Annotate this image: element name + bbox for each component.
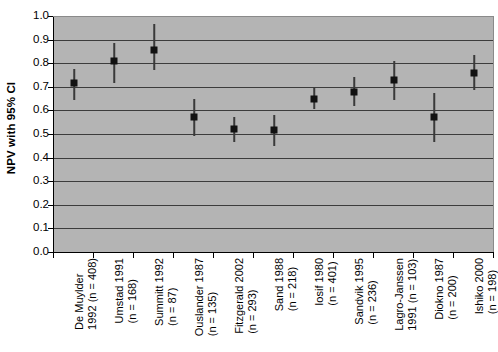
data-point-marker bbox=[311, 95, 318, 102]
y-axis-tick-mark bbox=[48, 134, 53, 135]
data-point-marker bbox=[71, 80, 78, 87]
y-axis-title: NPV with 95% CI bbox=[0, 0, 22, 256]
category-label-line-1: Sand 1988 bbox=[273, 258, 285, 311]
x-axis-category-label: Ouslander 1987(n = 135) bbox=[173, 258, 213, 352]
y-axis-tick-mark bbox=[48, 63, 53, 64]
y-axis-tick-label: 0.0 bbox=[20, 246, 49, 258]
category-label-line-1: Lagro-Janssen bbox=[393, 258, 405, 331]
category-label-line-1: Diokno 1987 bbox=[433, 258, 445, 320]
y-axis-tick-mark bbox=[48, 16, 53, 17]
x-axis-tick-mark bbox=[253, 253, 254, 258]
gridline bbox=[54, 40, 494, 41]
y-axis-tick-mark bbox=[48, 205, 53, 206]
gridline bbox=[54, 110, 494, 111]
data-point-marker bbox=[191, 114, 198, 121]
x-axis-category-label: Ishiko 2000(n = 198) bbox=[453, 258, 493, 352]
y-axis-tick-label: 0.2 bbox=[20, 199, 49, 211]
data-point-marker bbox=[271, 127, 278, 134]
category-label-line-1: Ishiko 2000 bbox=[473, 258, 485, 314]
x-axis-category-label: Sandvik 1995(n = 236) bbox=[333, 258, 373, 352]
x-axis-category-label: Iosif 1980(n = 401) bbox=[293, 258, 333, 352]
category-label-line-1: Umstad 1991 bbox=[113, 258, 125, 323]
y-axis-tick-label: 0.3 bbox=[20, 175, 49, 187]
gridline bbox=[54, 87, 494, 88]
y-axis-tick-label: 0.4 bbox=[20, 152, 49, 164]
gridline bbox=[54, 63, 494, 64]
data-point-marker bbox=[351, 88, 358, 95]
y-axis-tick-mark bbox=[48, 110, 53, 111]
x-axis-tick-mark bbox=[93, 253, 94, 258]
y-axis-tick-label: 0.5 bbox=[20, 128, 49, 140]
x-axis-category-label: Sand 1988(n = 218) bbox=[253, 258, 293, 352]
category-label-line-2: (n = 198) bbox=[486, 258, 498, 314]
x-axis-line bbox=[53, 252, 494, 253]
plot-area-right-border bbox=[493, 16, 494, 253]
y-axis-tick-mark bbox=[48, 87, 53, 88]
x-axis-category-label: Lagro-Janssen1991 (n = 103) bbox=[373, 258, 413, 352]
y-axis-tick-label: 0.1 bbox=[20, 223, 49, 235]
x-axis-category-label: Diokno 1987(n = 200) bbox=[413, 258, 453, 352]
gridline bbox=[54, 181, 494, 182]
data-point-marker bbox=[391, 76, 398, 83]
x-axis-category-label: Umstad 1991(n = 168) bbox=[93, 258, 133, 352]
x-axis-tick-mark bbox=[133, 253, 134, 258]
y-axis-tick-mark bbox=[48, 228, 53, 229]
x-axis-tick-mark bbox=[173, 253, 174, 258]
x-axis-tick-mark bbox=[333, 253, 334, 258]
y-axis-tick-mark bbox=[48, 40, 53, 41]
y-axis-tick-label: 0.8 bbox=[20, 57, 49, 69]
gridline bbox=[54, 205, 494, 206]
y-axis-tick-label: 0.9 bbox=[20, 34, 49, 46]
y-axis-title-text: NPV with 95% CI bbox=[5, 82, 17, 174]
data-point-marker bbox=[111, 57, 118, 64]
category-label-line-1: Sandvik 1995 bbox=[353, 258, 365, 325]
x-axis-tick-mark bbox=[453, 253, 454, 258]
x-axis-tick-mark bbox=[213, 253, 214, 258]
category-label-line-1: Summitt 1992 bbox=[153, 258, 165, 326]
plot-area-top-border bbox=[53, 16, 494, 17]
category-label-line-1: Ouslander 1987 bbox=[193, 258, 205, 336]
category-label-line-1: De Muylder bbox=[73, 274, 85, 330]
data-point-marker bbox=[431, 114, 438, 121]
x-axis-tick-mark bbox=[53, 253, 54, 258]
x-axis-tick-mark bbox=[493, 253, 494, 258]
x-axis-category-label: Summitt 1992(n = 87) bbox=[133, 258, 173, 352]
y-axis-tick-mark bbox=[48, 158, 53, 159]
data-point-marker bbox=[231, 126, 238, 133]
y-axis-tick-labels: 1.00.90.80.70.60.50.40.30.20.10.0 bbox=[20, 0, 49, 256]
gridline bbox=[54, 158, 494, 159]
y-axis-tick-mark bbox=[48, 181, 53, 182]
data-point-marker bbox=[471, 69, 478, 76]
x-axis-category-label: Fitzgerald 2002(n = 293) bbox=[213, 258, 253, 352]
x-axis-category-label-text: Ishiko 2000(n = 198) bbox=[473, 258, 498, 314]
data-point-marker bbox=[151, 47, 158, 54]
y-axis-tick-label: 1.0 bbox=[20, 10, 49, 22]
x-axis-category-labels: De Muylder1992 (n = 408)Umstad 1991(n = … bbox=[53, 258, 494, 352]
y-axis-tick-label: 0.6 bbox=[20, 105, 49, 117]
x-axis-tick-mark bbox=[413, 253, 414, 258]
category-label-line-1: Iosif 1980 bbox=[313, 258, 325, 306]
x-axis-tick-mark bbox=[293, 253, 294, 258]
x-axis-tick-mark bbox=[373, 253, 374, 258]
plot-area bbox=[53, 16, 494, 252]
x-axis-category-label: De Muylder1992 (n = 408) bbox=[53, 258, 93, 352]
category-label-line-1: Fitzgerald 2002 bbox=[233, 258, 245, 334]
gridline bbox=[54, 228, 494, 229]
y-axis-tick-label: 0.7 bbox=[20, 81, 49, 93]
